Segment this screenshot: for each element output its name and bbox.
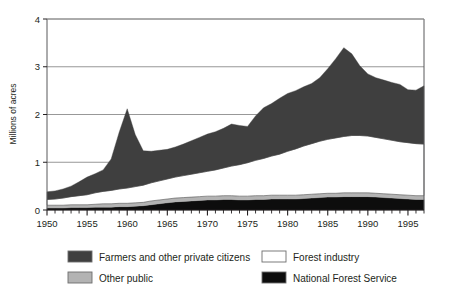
legend-label-2: Other public xyxy=(99,273,153,284)
x-tick-label-1985: 1985 xyxy=(317,218,338,229)
y-tick-label-1: 1 xyxy=(35,157,40,168)
legend-label-0: Farmers and other private citizens xyxy=(99,252,250,263)
y-tick-label-4: 4 xyxy=(35,14,40,25)
x-tick-label-1955: 1955 xyxy=(77,218,98,229)
x-axis-tick-labels: 1950195519601965197019751980198519901995 xyxy=(36,218,418,229)
x-tick-label-1970: 1970 xyxy=(197,218,218,229)
legend-swatch-0 xyxy=(68,251,92,262)
y-tick-label-3: 3 xyxy=(35,61,40,72)
stacked-area-chart: 1950195519601965197019751980198519901995… xyxy=(0,0,459,300)
y-tick-label-0: 0 xyxy=(35,205,40,216)
y-axis-title: Millions of acres xyxy=(8,84,18,145)
chart-legend: Farmers and other private citizensForest… xyxy=(68,251,397,284)
x-tick-label-1950: 1950 xyxy=(36,218,57,229)
x-tick-label-1975: 1975 xyxy=(237,218,258,229)
x-tick-label-1980: 1980 xyxy=(277,218,298,229)
legend-swatch-3 xyxy=(262,272,286,283)
legend-label-3: National Forest Service xyxy=(293,273,397,284)
y-tick-label-2: 2 xyxy=(35,109,40,120)
x-tick-label-1960: 1960 xyxy=(117,218,138,229)
y-axis-ticks xyxy=(43,19,47,210)
x-axis-ticks xyxy=(47,210,424,216)
x-tick-label-1965: 1965 xyxy=(157,218,178,229)
x-tick-label-1995: 1995 xyxy=(397,218,418,229)
chart-figure: 1950195519601965197019751980198519901995… xyxy=(0,0,459,300)
legend-swatch-2 xyxy=(68,272,92,283)
x-tick-label-1990: 1990 xyxy=(357,218,378,229)
y-axis-tick-labels: 01234 xyxy=(35,14,40,216)
legend-swatch-1 xyxy=(262,251,286,262)
legend-label-1: Forest industry xyxy=(293,252,359,263)
